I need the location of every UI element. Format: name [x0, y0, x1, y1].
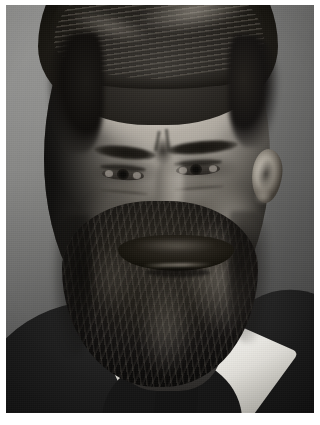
beard-edge-left: [50, 215, 92, 355]
screenshot-root: bearded man in dark suit, head-and-shoul…: [0, 0, 320, 425]
portrait-photograph: [6, 5, 314, 413]
beard-highlight-center: [138, 281, 194, 377]
sclera-left-outer: [133, 172, 141, 180]
sclera-right-outer: [209, 165, 217, 172]
sclera-left-inner: [105, 170, 113, 178]
mustache-highlight: [132, 239, 218, 251]
temple-shadow-left: [46, 33, 104, 153]
lower-lip-shadow: [146, 268, 210, 277]
temple-shadow-right: [228, 35, 280, 147]
